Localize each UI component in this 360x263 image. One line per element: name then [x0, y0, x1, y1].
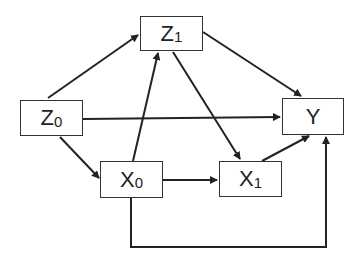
node-x0-subscript: 0: [135, 174, 143, 191]
edge-z0-y: [83, 117, 280, 119]
node-x0-label: X: [120, 167, 135, 193]
node-z1: Z1: [140, 16, 203, 51]
node-x0: X0: [100, 161, 163, 198]
edge-x1-y: [262, 136, 309, 161]
edge-x0-z1: [133, 53, 158, 161]
edge-z1-y: [203, 32, 301, 96]
node-x1: X1: [219, 161, 282, 197]
node-z0-label: Z: [41, 105, 54, 131]
edge-z0-x0: [60, 137, 99, 178]
node-x1-label: X: [239, 166, 254, 192]
node-y: Y: [282, 98, 344, 135]
edge-z1-x1: [173, 52, 240, 159]
node-z1-label: Z: [161, 21, 174, 47]
node-x1-subscript: 1: [254, 174, 262, 191]
node-z0: Z0: [20, 100, 83, 136]
node-z1-subscript: 1: [174, 28, 182, 45]
node-y-label: Y: [306, 104, 321, 130]
edge-z0-z1: [48, 35, 138, 98]
node-z0-subscript: 0: [54, 113, 62, 130]
